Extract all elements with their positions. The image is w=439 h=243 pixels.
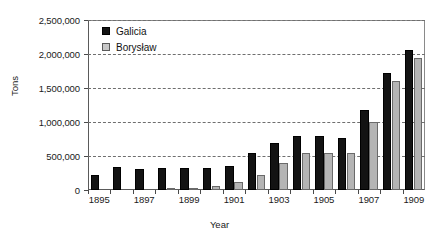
legend-item: Galicia bbox=[102, 24, 157, 38]
bar-galicia-1902 bbox=[248, 153, 256, 190]
y-axis-title: Tons bbox=[9, 76, 20, 96]
bar-galicia-1907 bbox=[360, 110, 368, 190]
x-tick-label: 1909 bbox=[403, 194, 424, 205]
x-tick-label: 1907 bbox=[358, 194, 379, 205]
y-tick-label: 1,500,000 bbox=[39, 83, 80, 94]
y-axis: 0500,0001,000,0001,500,0002,000,0002,500… bbox=[0, 0, 86, 243]
bar-galicia-1906 bbox=[338, 138, 346, 190]
bar-galicia-1904 bbox=[293, 136, 301, 190]
x-tick-mark bbox=[290, 190, 291, 194]
bar-galicia-1900 bbox=[203, 168, 211, 190]
legend-swatch-galicia-icon bbox=[102, 27, 110, 35]
y-tick-label: 2,000,000 bbox=[39, 49, 80, 60]
bar-borysaw-1905 bbox=[324, 153, 332, 190]
y-tick-label: 1,000,000 bbox=[39, 117, 80, 128]
bar-galicia-1897 bbox=[135, 169, 143, 190]
bar-borysaw-1906 bbox=[347, 153, 355, 190]
bar-galicia-1898 bbox=[158, 168, 166, 190]
x-tick-mark bbox=[245, 190, 246, 194]
x-tick-mark bbox=[155, 190, 156, 194]
x-tick-label: 1901 bbox=[224, 194, 245, 205]
bar-galicia-1899 bbox=[180, 168, 188, 190]
y-tick-mark bbox=[84, 20, 88, 21]
x-tick-label: 1905 bbox=[314, 194, 335, 205]
legend-swatch-boryslaw-icon bbox=[102, 43, 110, 51]
bar-borysaw-1907 bbox=[369, 122, 377, 190]
gridline bbox=[88, 88, 425, 89]
x-tick-mark bbox=[335, 190, 336, 194]
y-tick-label: 500,000 bbox=[46, 151, 80, 162]
bar-borysaw-1903 bbox=[279, 163, 287, 190]
y-tick-label: 2,500,000 bbox=[39, 15, 80, 26]
y-tick-mark bbox=[84, 122, 88, 123]
bar-galicia-1908 bbox=[383, 73, 391, 190]
bar-borysaw-1898 bbox=[167, 188, 175, 190]
y-tick-label: 0 bbox=[75, 185, 80, 196]
bar-galicia-1903 bbox=[270, 143, 278, 190]
chart-screenshot: 0500,0001,000,0001,500,0002,000,0002,500… bbox=[0, 0, 439, 243]
x-tick-mark bbox=[110, 190, 111, 194]
x-tick-label: 1897 bbox=[134, 194, 155, 205]
x-axis-title: Year bbox=[0, 219, 439, 230]
y-tick-mark bbox=[84, 54, 88, 55]
bar-borysaw-1900 bbox=[212, 186, 220, 190]
x-tick-mark bbox=[380, 190, 381, 194]
legend-label: Galicia bbox=[116, 26, 147, 37]
bar-borysaw-1899 bbox=[189, 188, 197, 190]
bar-galicia-1909 bbox=[405, 50, 413, 190]
bar-galicia-1905 bbox=[315, 136, 323, 190]
x-tick-mark bbox=[200, 190, 201, 194]
y-tick-mark bbox=[84, 88, 88, 89]
x-tick-label: 1903 bbox=[269, 194, 290, 205]
bar-galicia-1895 bbox=[91, 175, 99, 190]
legend-label: Borysław bbox=[116, 42, 157, 53]
bar-galicia-1901 bbox=[225, 166, 233, 190]
bar-borysaw-1908 bbox=[392, 81, 400, 190]
x-tick-label: 1899 bbox=[179, 194, 200, 205]
bar-borysaw-1902 bbox=[257, 175, 265, 190]
bar-galicia-1896 bbox=[113, 167, 121, 190]
bar-borysaw-1904 bbox=[302, 153, 310, 190]
x-tick-label: 1895 bbox=[89, 194, 110, 205]
bar-borysaw-1901 bbox=[234, 182, 242, 190]
bar-borysaw-1909 bbox=[414, 58, 422, 190]
legend-item: Borysław bbox=[102, 40, 157, 54]
gridline bbox=[88, 20, 425, 21]
chart-legend: GaliciaBorysław bbox=[102, 24, 157, 56]
y-tick-mark bbox=[84, 156, 88, 157]
